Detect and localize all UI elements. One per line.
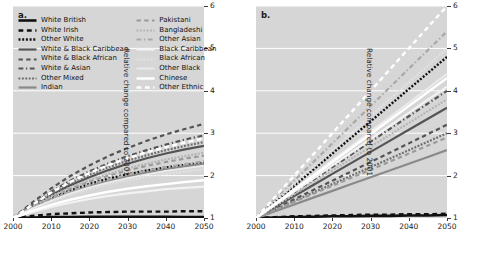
legend-item-label: Bangladeshi (159, 26, 202, 36)
y-tick-label: 5 (453, 42, 458, 53)
panel-b-y-axis: Relative change compared to 2001 123456 (447, 6, 487, 218)
legend-item[interactable]: Pakistani (136, 16, 216, 26)
x-tick-mark (447, 218, 448, 221)
y-tick-mark (204, 133, 208, 134)
y-tick-mark (204, 6, 208, 7)
x-tick-mark (294, 218, 295, 221)
legend-line-swatch-icon (136, 75, 155, 82)
y-tick-label: 3 (453, 127, 458, 138)
x-tick-label: 2040 (156, 222, 175, 231)
x-tick-mark (13, 218, 14, 221)
y-tick-label: 6 (210, 0, 215, 11)
y-axis-tick: 1 (204, 218, 250, 219)
legend-item-label: Pakistani (159, 16, 190, 26)
legend-line-swatch-icon (18, 65, 37, 72)
y-axis-tick: 6 (447, 6, 487, 7)
x-tick-mark (51, 218, 52, 221)
y-axis-tick: 1 (447, 218, 487, 219)
legend-line-swatch-icon (18, 36, 37, 43)
legend-item-label: Black Caribbean (159, 45, 216, 55)
y-axis-tick: 5 (447, 48, 487, 49)
legend-line-swatch-icon (18, 75, 37, 82)
x-tick-label: 2020 (323, 222, 342, 231)
legend-item[interactable]: Other White (18, 35, 128, 45)
y-tick-mark (447, 133, 451, 134)
legend-item-label: Other Asian (159, 35, 200, 45)
y-axis-tick: 4 (447, 91, 487, 92)
legend-item-label: Other White (41, 35, 83, 45)
x-tick-label: 2000 (3, 222, 22, 231)
y-axis-tick: 2 (204, 176, 250, 177)
legend-item-label: Indian (41, 83, 63, 93)
y-axis-tick: 2 (447, 176, 487, 177)
x-tick-mark (204, 218, 205, 221)
legend-line-swatch-icon (18, 46, 37, 53)
legend-line-swatch-icon (18, 84, 37, 91)
y-tick-label: 6 (453, 0, 458, 11)
x-tick-label: 2030 (118, 222, 137, 231)
x-tick-label: 2030 (361, 222, 380, 231)
x-tick-label: 2040 (399, 222, 418, 231)
legend-line-swatch-icon (18, 27, 37, 34)
figure-root: a. Relative change compared to 2001 1234… (0, 0, 487, 256)
panel-b-y-axis-title: Relative change compared to 2001 (264, 6, 476, 218)
x-tick-label: 2000 (246, 222, 265, 231)
legend-item[interactable]: Black African (136, 54, 216, 64)
legend-item[interactable]: Chinese (136, 74, 216, 84)
x-tick-mark (409, 218, 410, 221)
legend-item-label: White & Black African (41, 54, 117, 64)
legend-item[interactable]: Other Ethnic (136, 83, 216, 93)
legend-item[interactable]: White Irish (18, 26, 128, 36)
legend-line-swatch-icon (136, 36, 155, 43)
y-tick-mark (447, 91, 451, 92)
legend-item-label: Chinese (159, 74, 187, 84)
legend-item[interactable]: Indian (18, 83, 128, 93)
panel-b-letter: b. (261, 10, 270, 20)
legend-item-label: White & Black Caribbean (41, 45, 128, 55)
y-tick-mark (447, 48, 451, 49)
y-axis-tick: 3 (447, 133, 487, 134)
legend-item[interactable]: Bangladeshi (136, 26, 216, 36)
legend-item-label: Black African (159, 54, 205, 64)
x-tick-label: 2050 (437, 222, 456, 231)
legend-item[interactable]: Black Caribbean (136, 45, 216, 55)
legend-item-label: Other Black (159, 64, 200, 74)
chart-legend: White BritishWhite IrishOther WhiteWhite… (18, 16, 200, 93)
y-tick-label: 2 (453, 170, 458, 181)
x-tick-mark (256, 218, 257, 221)
legend-item[interactable]: White & Asian (18, 64, 128, 74)
legend-item[interactable]: Other Asian (136, 35, 216, 45)
legend-item[interactable]: White & Black African (18, 54, 128, 64)
x-tick-mark (332, 218, 333, 221)
y-axis-tick: 3 (204, 133, 250, 134)
legend-item-label: White & Asian (41, 64, 90, 74)
legend-line-swatch-icon (136, 84, 155, 91)
x-tick-label: 2020 (80, 222, 99, 231)
x-tick-label: 2010 (42, 222, 61, 231)
legend-line-swatch-icon (136, 17, 155, 24)
y-tick-label: 2 (210, 170, 215, 181)
x-tick-mark (166, 218, 167, 221)
legend-item[interactable]: Other Black (136, 64, 216, 74)
legend-item-label: Other Ethnic (159, 83, 203, 93)
legend-column-left: White BritishWhite IrishOther WhiteWhite… (18, 16, 128, 93)
panel-a-letter: a. (18, 10, 27, 20)
x-tick-mark (371, 218, 372, 221)
legend-item-label: Other Mixed (41, 74, 84, 84)
y-tick-mark (447, 176, 451, 177)
legend-column-right: PakistaniBangladeshiOther AsianBlack Car… (136, 16, 216, 93)
legend-item[interactable]: Other Mixed (18, 74, 128, 84)
legend-line-swatch-icon (136, 46, 155, 53)
panel-a-x-axis: 200020102020203020402050 (13, 218, 204, 236)
x-tick-label: 2010 (285, 222, 304, 231)
y-tick-mark (447, 6, 451, 7)
legend-item[interactable]: White & Black Caribbean (18, 45, 128, 55)
legend-line-swatch-icon (136, 27, 155, 34)
legend-item-label: White British (41, 16, 86, 26)
legend-line-swatch-icon (18, 56, 37, 63)
x-tick-mark (89, 218, 90, 221)
y-tick-label: 4 (453, 85, 458, 96)
legend-line-swatch-icon (136, 65, 155, 72)
legend-item[interactable]: White British (18, 16, 128, 26)
panel-b-x-axis: 200020102020203020402050 (256, 218, 447, 236)
